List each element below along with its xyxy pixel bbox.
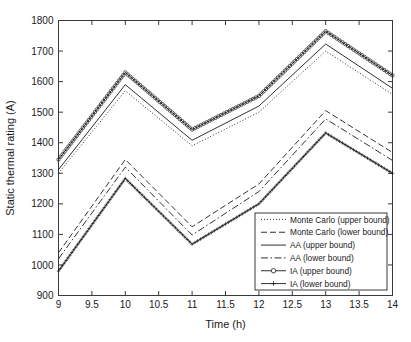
y-tick-label: 1200 <box>31 198 54 209</box>
y-tick-label: 1800 <box>31 15 54 26</box>
legend-label: Monte Carlo (lower bound) <box>290 227 388 237</box>
legend-label: IA (upper bound) <box>290 266 352 276</box>
legend: Monte Carlo (upper bound)Monte Carlo (lo… <box>255 213 390 290</box>
x-tick-label: 11 <box>187 299 198 310</box>
x-tick-label: 10 <box>120 299 132 310</box>
y-tick-label: 900 <box>37 290 54 301</box>
x-tick-label: 13 <box>320 299 332 310</box>
legend-label: Monte Carlo (upper bound) <box>290 215 390 225</box>
y-tick-label: 1300 <box>31 168 54 179</box>
x-tick-label: 9.5 <box>85 299 99 310</box>
y-tick-label: 1600 <box>31 76 54 87</box>
y-tick-label: 1700 <box>31 46 54 57</box>
chart-figure: 99.51010.51111.51212.51313.5149001000110… <box>0 0 411 342</box>
legend-label: IA (lower bound) <box>290 279 351 289</box>
y-tick-label: 1100 <box>32 229 54 240</box>
y-tick-label: 1000 <box>31 260 54 271</box>
series-line <box>59 44 393 170</box>
x-tick-label: 11.5 <box>216 299 235 310</box>
x-tick-label: 12.5 <box>283 299 303 310</box>
x-tick-label: 9 <box>56 299 62 310</box>
x-tick-label: 13.5 <box>349 299 369 310</box>
x-axis-title: Time (h) <box>205 318 246 330</box>
x-tick-label: 12 <box>253 299 265 310</box>
legend-label: AA (upper bound) <box>290 240 355 250</box>
y-axis-title: Static thermal rating (A) <box>4 100 16 216</box>
legend-marker-circle <box>271 269 275 273</box>
legend-label: AA (lower bound) <box>290 253 354 263</box>
chart-svg: 99.51010.51111.51212.51313.5149001000110… <box>0 0 411 342</box>
y-tick-label: 1500 <box>31 107 54 118</box>
y-tick-label: 1400 <box>31 137 54 148</box>
x-tick-label: 14 <box>387 299 399 310</box>
x-tick-label: 10.5 <box>149 299 169 310</box>
